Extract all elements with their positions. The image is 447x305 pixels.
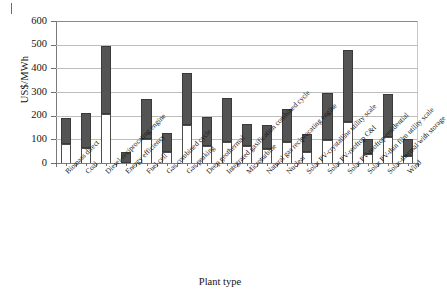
bar[interactable] — [101, 46, 111, 163]
bar[interactable] — [61, 118, 71, 163]
y-tick-label: 600 — [13, 16, 47, 26]
x-tick-mark — [56, 163, 57, 167]
y-tick-label: 200 — [13, 110, 47, 120]
y-tick-label: 500 — [13, 39, 47, 49]
bar-segment-low — [101, 114, 111, 163]
page-scan-artifact — [11, 3, 12, 14]
bar-segment-high — [182, 73, 192, 125]
y-tick-label: 300 — [13, 87, 47, 97]
y-tick-label: 400 — [13, 63, 47, 73]
bar-segment-high — [61, 118, 71, 145]
bar-segment-high — [222, 98, 232, 142]
bar-segment-high — [343, 50, 353, 122]
y-tick-label: 100 — [13, 134, 47, 144]
bar-segment-low — [61, 144, 71, 163]
x-axis-title: Plant type — [0, 276, 440, 287]
y-tick-label: 0 — [13, 158, 47, 168]
bar-segment-high — [101, 46, 111, 115]
